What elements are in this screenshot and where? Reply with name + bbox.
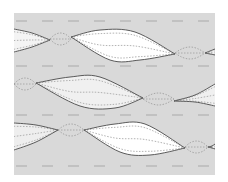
twisted-ribbon-diagram	[0, 0, 228, 182]
